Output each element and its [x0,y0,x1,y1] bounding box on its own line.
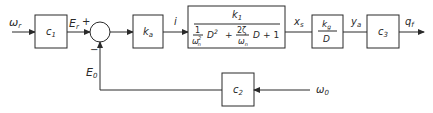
signal-omega0-label: ω0 [316,84,329,97]
integrator-denominator: D [323,34,330,44]
signal-ya-label: ya [350,16,361,29]
svg-text:ωr: ωr [9,16,22,30]
summing-junction [90,22,110,42]
signal-xs-label: xs [293,16,304,29]
signal-e0-label: E0 [86,66,98,80]
plant-den-omega: ωn2 [192,35,201,47]
input-signal-omega-r: ωr [9,16,22,30]
minus-sign: − [90,44,98,55]
plant-den-d: D [253,30,260,40]
plant-den-one: 1 [195,26,200,35]
signal-i-label: i [174,16,177,27]
plant-den-two-zeta: 2ζ [237,26,246,35]
plant-den-plus: + [225,30,233,40]
block-diagram: ωr c1 Er + − ka i k1 1 ωn2 D2 + 2ζ ωn D … [0,0,433,113]
feedback-path [100,42,222,90]
signal-er-label: Er [69,17,80,31]
signal-qf-label: qf [405,16,415,29]
plant-den-plus-one: + 1 [263,30,279,40]
plus-sign: + [82,16,90,27]
